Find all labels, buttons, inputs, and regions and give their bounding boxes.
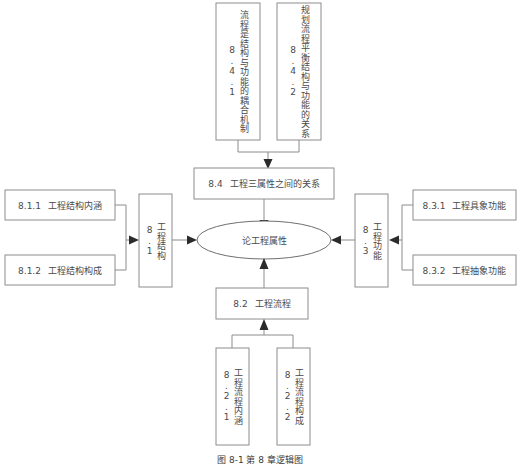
node-box-8-3-1[interactable] xyxy=(413,190,516,220)
node-box-8-1-2[interactable] xyxy=(5,255,115,285)
node-box-8-2-2[interactable] xyxy=(277,348,310,445)
node-box-8-2[interactable] xyxy=(216,288,308,319)
arrow-head-into-center-right xyxy=(331,236,341,245)
arrow-head-into-81 xyxy=(129,236,139,245)
node-box-8-2-1[interactable] xyxy=(216,348,249,445)
node-box-8-4-2[interactable] xyxy=(277,3,321,140)
edge-811-to-81 xyxy=(115,205,126,240)
node-box-8-3-2[interactable] xyxy=(413,255,516,285)
edge-831-to-83 xyxy=(402,205,413,240)
arrow-head-into-83 xyxy=(389,236,399,245)
arrow-head-into-center-bottom xyxy=(260,258,269,269)
node-ellipse-center[interactable] xyxy=(197,221,331,259)
edge-842-to-84 xyxy=(268,140,299,152)
arrow-head-into-center-left xyxy=(187,236,197,245)
edge-812-to-81 xyxy=(115,240,126,270)
node-box-8-1[interactable] xyxy=(139,194,172,287)
figure-diagram: 8.4.1 流程是结构与功能的耦合机制 8.4.2 规划流程平衡结构与功能的关系… xyxy=(0,0,520,468)
node-box-8-3[interactable] xyxy=(355,194,388,287)
diagram-canvas xyxy=(0,0,520,468)
arrow-head-into-82 xyxy=(260,319,269,330)
node-box-8-4[interactable] xyxy=(194,168,334,199)
edge-841-to-84 xyxy=(238,140,268,152)
node-box-8-4-1[interactable] xyxy=(216,3,260,140)
edge-821-to-82 xyxy=(232,335,264,348)
node-box-8-1-1[interactable] xyxy=(5,190,115,220)
edge-822-to-82 xyxy=(264,335,293,348)
edge-832-to-83 xyxy=(402,240,413,270)
